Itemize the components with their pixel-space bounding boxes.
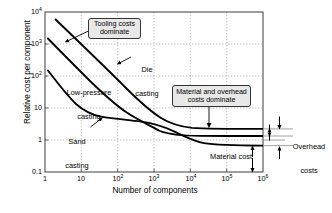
callout-tooling-line1: Tooling costs <box>92 20 137 28</box>
side-label-overhead-line2: costs <box>288 167 330 175</box>
y-tick-1e3-exp: 3 <box>39 38 42 44</box>
x-tick-1e4-exp: 4 <box>194 173 197 179</box>
side-label-overhead-line1: Overhead <box>288 143 330 151</box>
curve-label-die-line1: Die <box>130 66 164 74</box>
curve-label-sand-casting: Sand casting <box>61 122 93 186</box>
callout-material-overhead-dominate: Material and overhead costs dominate <box>172 85 251 107</box>
y-tick-1e4-exp: 4 <box>39 6 42 12</box>
overhead-costs-arrows <box>270 117 280 160</box>
x-axis-title: Number of components <box>85 187 225 196</box>
callout-material-overhead-line1: Material and overhead <box>176 88 247 96</box>
cost-vs-batch-size-chart: 104 103 102 10 1 0.1 1 10 102 103 104 10… <box>0 0 332 213</box>
side-label-overhead-costs: Overhead costs <box>288 127 330 191</box>
x-tick-1: 1 <box>35 175 55 183</box>
x-tick-1e5-exp: 5 <box>230 173 233 179</box>
x-tick-1e4: 104 <box>180 175 202 183</box>
callout-tooling-line2: dominate <box>92 28 137 36</box>
y-tick-1e2-exp: 2 <box>39 70 42 76</box>
side-label-material-cost: Material cost <box>196 153 252 161</box>
y-axis-title: Relative cost per component <box>23 20 32 124</box>
x-tick-1e6-exp: 6 <box>266 173 269 179</box>
x-tick-1e3-exp: 3 <box>157 173 160 179</box>
x-tick-1e3: 103 <box>143 175 165 183</box>
x-tick-1e2: 102 <box>107 175 129 183</box>
curve-label-die-casting: Die casting <box>130 50 164 114</box>
x-tick-1e2-exp: 2 <box>121 173 124 179</box>
curve-label-die-line2: casting <box>130 90 164 98</box>
curve-label-low-pressure-line1: Low-pressure <box>61 89 117 97</box>
x-tick-1e5: 105 <box>216 175 238 183</box>
curve-label-sand-line1: Sand <box>61 138 93 146</box>
callout-tooling-costs-dominate: Tooling costs dominate <box>88 18 141 40</box>
x-tick-1e6: 106 <box>252 175 274 183</box>
curve-label-low-pressure-line2: casting <box>61 113 117 121</box>
curve-label-sand-line2: casting <box>61 162 93 170</box>
callout-material-overhead-line2: costs dominate <box>176 96 247 104</box>
y-axis-title-wrapper: Relative cost per component <box>16 0 34 147</box>
